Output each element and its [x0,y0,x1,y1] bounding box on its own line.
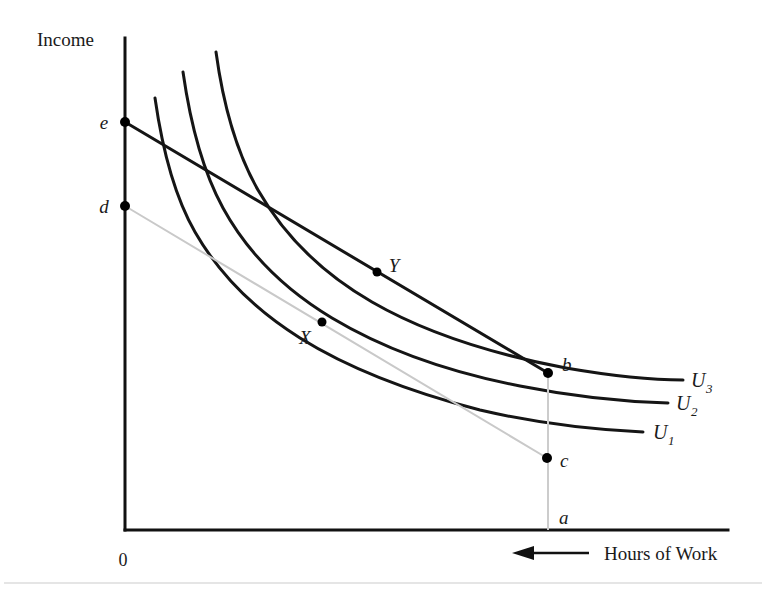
curve-label-u2-subscript: 2 [691,404,698,419]
point-label-d: d [99,196,109,217]
budget-line-e-to-b [125,122,548,373]
point-label-y: Y [389,255,402,276]
budget-lines-group [125,122,548,530]
x-axis-title: Hours of Work [604,543,718,564]
indifference-curve-diagram: e d X Y b c a U 3 U 2 U 1 Income [0,0,766,600]
point-label-x: X [298,327,312,348]
origin-label: 0 [119,550,128,570]
hours-of-work-arrow-icon [512,546,589,560]
axes-group [125,38,728,530]
compensated-budget-line-d-c [125,206,547,458]
curve-label-u1: U 1 [653,421,675,448]
point-marker-d [120,201,130,211]
curve-label-u2-letter: U [676,392,692,414]
point-label-b: b [562,354,572,375]
point-marker-c [542,453,552,463]
point-label-a: a [559,507,569,528]
curve-label-u3-letter: U [691,369,707,391]
curve-label-u2: U 2 [676,392,698,419]
axis-titles-group: Income 0 Hours of Work [37,29,718,570]
point-label-e: e [100,112,108,133]
curve-label-u3-subscript: 3 [705,381,713,396]
point-marker-x [318,318,327,327]
curve-label-u1-subscript: 1 [668,433,675,448]
curve-label-u3: U 3 [691,369,713,396]
curve-u2 [183,72,668,403]
indifference-curves-group [155,52,683,432]
point-marker-y [373,268,382,277]
figure-container: e d X Y b c a U 3 U 2 U 1 Income [0,0,766,600]
curve-label-u1-letter: U [653,421,669,443]
point-label-c: c [560,450,569,471]
point-marker-b [543,368,553,378]
y-axis-title: Income [37,29,94,50]
point-marker-e [120,117,130,127]
